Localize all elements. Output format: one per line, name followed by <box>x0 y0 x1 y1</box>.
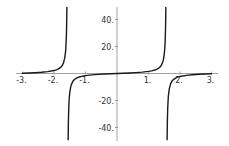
y-tick-label: 40. <box>101 16 114 25</box>
tan-curve-branch <box>167 74 211 140</box>
tan-curve-branch <box>23 7 67 73</box>
y-tick-label: -40. <box>98 124 114 133</box>
x-tick-label: 3. <box>207 76 215 85</box>
x-tick-label: -3. <box>16 76 27 85</box>
x-tick-label: -2. <box>48 76 59 85</box>
x-tick-label: 1. <box>144 76 152 85</box>
tan-plot: -3.-2.-1.1.2.3. 40.20.-20.-40. <box>0 0 229 146</box>
y-tick-label: 20. <box>101 43 114 52</box>
y-tick-label: -20. <box>98 97 114 106</box>
